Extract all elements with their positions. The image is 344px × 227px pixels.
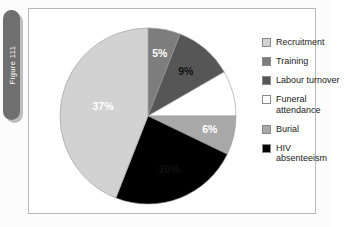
pie-slice-label: 20%: [159, 163, 181, 175]
legend-item[interactable]: HIV absenteeism: [262, 143, 344, 164]
figure-tab: Figure 111: [3, 10, 20, 120]
pie-slice-label: 9%: [178, 65, 194, 77]
legend-swatch: [262, 95, 271, 104]
pie-slice-label: 7%: [202, 92, 218, 104]
legend-swatch: [262, 76, 271, 85]
legend-label: Funeral attendance: [276, 94, 321, 115]
legend-label: Labour turnover: [276, 75, 340, 86]
pie-chart-svg: 5%9%7%6%20%37%: [59, 27, 237, 205]
legend-item[interactable]: Recruitment: [262, 37, 344, 48]
pie-slice-label: 5%: [152, 47, 168, 59]
legend-label: Recruitment: [276, 37, 325, 48]
pie-slice-label: 37%: [93, 100, 115, 112]
figure-tab-label: Figure 111: [7, 46, 16, 85]
figure-frame: 5%9%7%6%20%37% RecruitmentTrainingLabour…: [28, 8, 316, 214]
legend-swatch: [262, 57, 271, 66]
legend-label: Training: [276, 56, 308, 67]
legend-label: Burial: [276, 124, 299, 135]
legend-label: HIV absenteeism: [276, 143, 327, 164]
chart-legend: RecruitmentTrainingLabour turnoverFunera…: [262, 37, 344, 172]
legend-item[interactable]: Labour turnover: [262, 75, 344, 86]
pie-chart: 5%9%7%6%20%37%: [59, 27, 237, 205]
legend-swatch: [262, 144, 271, 153]
legend-swatch: [262, 125, 271, 134]
pie-slice-group: [60, 28, 236, 204]
legend-item[interactable]: Burial: [262, 124, 344, 135]
legend-item[interactable]: Funeral attendance: [262, 94, 344, 115]
legend-swatch: [262, 38, 271, 47]
pie-slice-label: 6%: [202, 123, 218, 135]
legend-item[interactable]: Training: [262, 56, 344, 67]
